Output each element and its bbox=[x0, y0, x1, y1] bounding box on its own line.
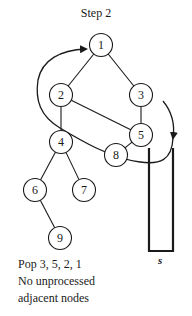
stack-label: s bbox=[158, 254, 162, 266]
caption-line-adjacent: adjacent nodes bbox=[18, 290, 95, 307]
caption-line-pop: Pop 3, 5, 2, 1 bbox=[18, 256, 95, 273]
node-label: 4 bbox=[58, 135, 64, 149]
stack-container bbox=[149, 148, 173, 251]
traversal-arrow bbox=[163, 101, 174, 138]
step-caption: Pop 3, 5, 2, 1 No unprocessed adjacent n… bbox=[18, 256, 95, 307]
node-label: 3 bbox=[138, 88, 144, 102]
node-1: 1 bbox=[90, 34, 113, 57]
edge-5-8 bbox=[125, 142, 132, 148]
edge-1-3 bbox=[108, 54, 134, 86]
node-9: 9 bbox=[49, 227, 72, 250]
edge-1-2 bbox=[68, 54, 94, 86]
edge-2-5 bbox=[71, 100, 130, 130]
node-label: 2 bbox=[58, 88, 64, 102]
node-7: 7 bbox=[73, 179, 96, 202]
node-label: 6 bbox=[32, 183, 38, 197]
node-label: 9 bbox=[57, 231, 63, 245]
graph-nodes: 123456789 bbox=[24, 34, 153, 250]
node-label: 7 bbox=[81, 183, 87, 197]
node-8: 8 bbox=[105, 144, 128, 167]
edge-6-9 bbox=[40, 200, 54, 228]
edge-4-7 bbox=[66, 152, 79, 179]
node-label: 8 bbox=[113, 148, 119, 162]
node-label: 1 bbox=[98, 38, 104, 52]
edge-4-6 bbox=[40, 152, 55, 180]
node-5: 5 bbox=[130, 124, 153, 147]
node-6: 6 bbox=[24, 179, 47, 202]
node-label: 5 bbox=[138, 128, 144, 142]
node-3: 3 bbox=[130, 84, 153, 107]
node-2: 2 bbox=[50, 84, 73, 107]
caption-line-no-unprocessed: No unprocessed bbox=[18, 273, 95, 290]
node-4: 4 bbox=[50, 131, 73, 154]
